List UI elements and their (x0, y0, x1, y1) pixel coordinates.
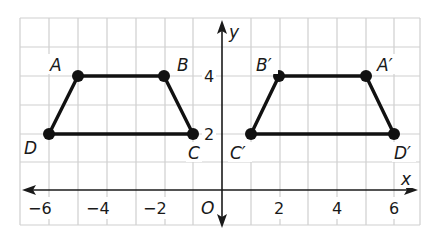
grid (20, 18, 420, 225)
point-b (158, 70, 170, 82)
x-axis-label: x (400, 169, 412, 189)
label-a: A (49, 55, 62, 75)
label-b: B (177, 55, 189, 75)
point-d (43, 128, 55, 140)
label-d: D (24, 138, 37, 158)
label-d-prime: D′ (394, 143, 411, 163)
origin-label: O (201, 198, 214, 218)
point-c-prime (245, 128, 257, 140)
x-tick: −4 (86, 199, 110, 218)
x-tick: 6 (389, 199, 399, 218)
label-c-prime: C′ (230, 143, 246, 163)
y-tick: 2 (204, 125, 214, 144)
trapezoid-abcd-prime: A′ B′ C′ D′ (228, 54, 416, 163)
x-tick: −2 (143, 199, 167, 218)
y-axis-label: y (228, 22, 240, 42)
x-tick: 4 (332, 199, 342, 218)
label-a-prime: A′ (376, 55, 393, 75)
axes (22, 20, 418, 228)
coordinate-plane: y x O −6 −4 −2 2 4 6 2 4 A B C (0, 0, 437, 236)
x-tick: 2 (274, 199, 284, 218)
point-c (187, 128, 199, 140)
label-c: C (188, 143, 200, 163)
point-a (72, 70, 84, 82)
y-tick: 4 (204, 67, 214, 86)
x-tick: −6 (28, 199, 52, 218)
point-d-prime (388, 128, 400, 140)
point-a-prime (360, 70, 372, 82)
label-b-prime: B′ (256, 55, 272, 75)
